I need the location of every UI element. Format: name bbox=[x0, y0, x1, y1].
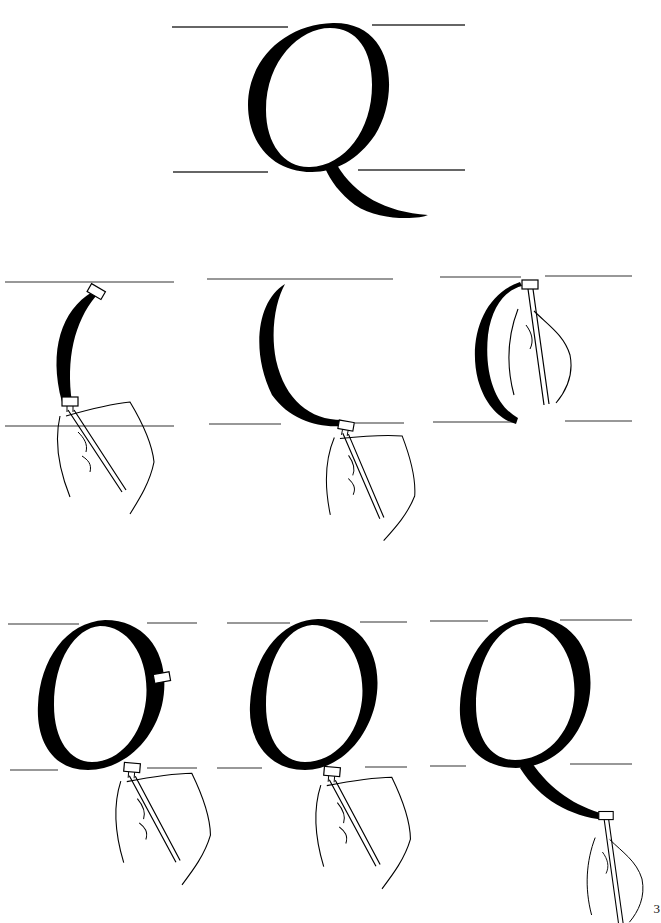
step-1 bbox=[57, 284, 154, 514]
step-4 bbox=[38, 620, 216, 887]
step-5 bbox=[250, 619, 416, 891]
hero-letter-q bbox=[172, 23, 465, 218]
step-3 bbox=[475, 280, 571, 424]
illustration bbox=[0, 0, 661, 923]
step-6 bbox=[460, 617, 643, 923]
row2-guidelines bbox=[8, 620, 632, 770]
step-2 bbox=[259, 284, 425, 545]
calligraphy-page: 3 bbox=[0, 0, 661, 923]
page-number: 3 bbox=[654, 901, 661, 917]
